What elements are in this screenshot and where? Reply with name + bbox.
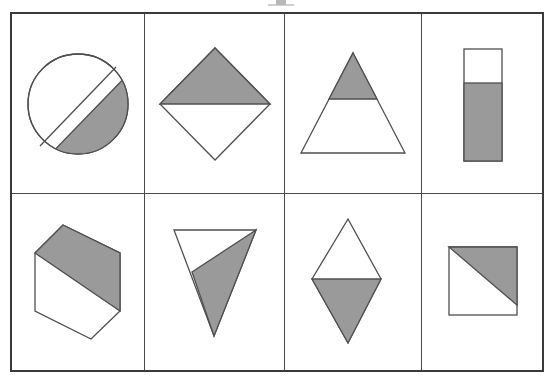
triangle-figure <box>293 41 413 166</box>
diamond-shaded-top <box>160 48 270 104</box>
inverted-triangle-figure <box>160 220 270 345</box>
triangle-shaded-top <box>329 53 377 99</box>
circle-figure <box>23 39 133 169</box>
rhombus-figure <box>298 212 408 352</box>
rectangle-figure <box>447 39 517 169</box>
worksheet-frame <box>10 12 544 372</box>
shape-cell-square[interactable] <box>422 194 542 370</box>
rectangle-shaded-bottom <box>464 83 502 161</box>
diamond-figure <box>150 34 280 174</box>
shape-cell-diamond[interactable] <box>145 14 285 194</box>
shape-cell-rhombus[interactable] <box>285 194 422 370</box>
shape-cell-triangle[interactable] <box>285 14 422 194</box>
shape-cell-hexagon[interactable] <box>12 194 145 370</box>
shape-cell-circle[interactable] <box>12 14 145 194</box>
shape-cell-rectangle[interactable] <box>422 14 542 194</box>
rhombus-shaded-bottom <box>312 279 381 343</box>
square-figure <box>437 237 527 327</box>
scan-artifact-mark <box>276 0 286 5</box>
shape-grid <box>12 14 542 370</box>
hexagon-figure <box>21 215 136 350</box>
shape-cell-inverted-triangle[interactable] <box>145 194 285 370</box>
